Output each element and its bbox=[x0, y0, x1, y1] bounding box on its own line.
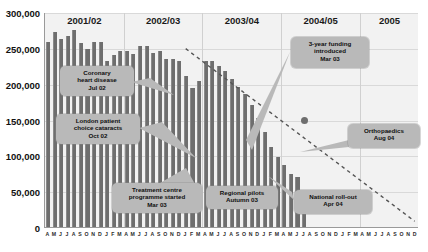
bar bbox=[256, 118, 260, 227]
callout-line: Jul 02 bbox=[64, 84, 130, 91]
callout-national-roll-out: National roll-outApr 04 bbox=[294, 190, 372, 214]
callout-line: Coronary bbox=[64, 69, 130, 76]
y-axis-tick-label: 250,000 bbox=[0, 43, 40, 54]
callout-line: Mar 03 bbox=[116, 201, 198, 208]
callout-treatment-centre-programme-started: Treatment centreprogramme startedMar 03 bbox=[112, 183, 202, 213]
gridline bbox=[45, 13, 418, 14]
callout-line: Orthopaedics bbox=[352, 127, 416, 134]
callout-line: Oct 02 bbox=[60, 132, 136, 139]
callout-line: heart disease bbox=[64, 76, 130, 83]
y-axis-tick-label: 0 bbox=[0, 223, 40, 234]
callout-line: London patient bbox=[60, 117, 136, 124]
bar bbox=[46, 42, 50, 227]
callout-orthopaedics: OrthopaedicsAug 04 bbox=[348, 124, 420, 148]
callout-line: Aug 04 bbox=[352, 134, 416, 141]
bar bbox=[263, 132, 267, 227]
callout-london-patient-choice-cataracts: London patientchoice cataractsOct 02 bbox=[56, 114, 140, 144]
marker-dot bbox=[301, 117, 308, 124]
callout-line: Treatment centre bbox=[116, 186, 198, 193]
callout-line: programme started bbox=[116, 193, 198, 200]
bar bbox=[289, 174, 293, 227]
callout-line: introduced bbox=[295, 47, 365, 54]
callout-line: choice cataracts bbox=[60, 124, 136, 131]
y-axis-tick-label: 300,000 bbox=[0, 8, 40, 19]
callout-line: Mar 03 bbox=[295, 55, 365, 62]
year-band-label: 2003/04 bbox=[202, 15, 281, 26]
y-axis-tick-label: 50,000 bbox=[0, 187, 40, 198]
callout-coronary-heart-disease: Coronaryheart diseaseJul 02 bbox=[60, 66, 134, 96]
callout-line: 3-year funding bbox=[295, 40, 365, 47]
year-band-label: 2002/03 bbox=[124, 15, 203, 26]
x-axis-month-labels: AMJJASONDJFMAMJJASONDJFMAMJJASONDJFMAMJJ… bbox=[44, 230, 418, 244]
callout-line: Apr 04 bbox=[298, 200, 368, 207]
x-axis-tick-label: D bbox=[411, 230, 418, 238]
y-axis-tick-label: 100,000 bbox=[0, 151, 40, 162]
callout-line: Autumn 03 bbox=[210, 196, 274, 203]
callout-line: Regional pilots bbox=[210, 189, 274, 196]
callout-line: National roll-out bbox=[298, 193, 368, 200]
bar bbox=[282, 165, 286, 227]
callout-three-year-funding-introduced: 3-year fundingintroducedMar 03 bbox=[291, 37, 369, 68]
year-band-label: 2005 bbox=[360, 15, 418, 26]
y-axis-tick-label: 150,000 bbox=[0, 115, 40, 126]
y-axis-tick-label: 200,000 bbox=[0, 79, 40, 90]
year-band-label: 2001/02 bbox=[45, 15, 124, 26]
callout-regional-pilots: Regional pilotsAutumn 03 bbox=[206, 186, 278, 209]
year-band-label: 2004/05 bbox=[281, 15, 360, 26]
waiting-list-bar-chart: 300,000250,000200,000150,000100,00050,00… bbox=[0, 0, 428, 252]
